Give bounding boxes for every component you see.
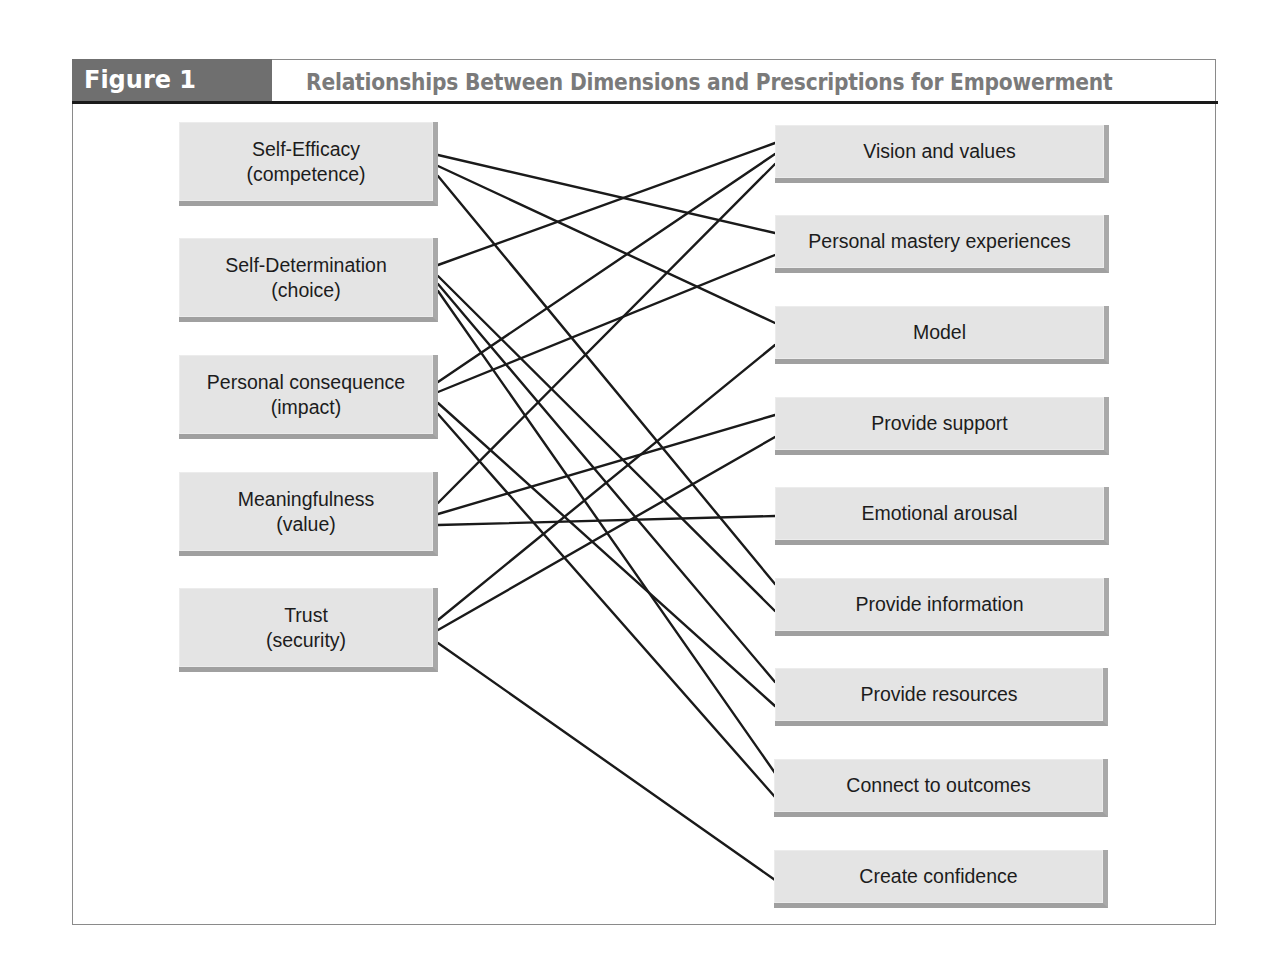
prescription-box-vision: Vision and values <box>775 125 1109 183</box>
prescription-box-confidence: Create confidence <box>774 850 1108 908</box>
dimension-box-meaningfulness: Meaningfulness (value) <box>179 472 438 556</box>
prescription-label: Create confidence <box>859 864 1017 889</box>
connector-trust-support <box>438 437 775 630</box>
dimension-box-trust: Trust (security) <box>179 588 438 672</box>
prescription-box-information: Provide information <box>775 578 1109 636</box>
dimension-name: Personal consequence <box>207 370 405 395</box>
dimension-box-self-efficacy: Self-Efficacy (competence) <box>179 122 438 206</box>
prescription-box-model: Model <box>775 306 1109 364</box>
prescription-label: Emotional arousal <box>861 501 1017 526</box>
prescription-label: Vision and values <box>863 139 1016 164</box>
connector-determination-vision <box>438 143 775 265</box>
connector-determination-outcomes <box>438 291 775 773</box>
prescription-label: Provide information <box>856 592 1024 617</box>
dimension-box-self-determination: Self-Determination (choice) <box>179 238 438 322</box>
prescription-box-resources: Provide resources <box>775 668 1108 726</box>
connector-trust-model <box>438 345 775 620</box>
prescription-box-outcomes: Connect to outcomes <box>774 759 1108 817</box>
dimension-subtitle: (competence) <box>246 162 365 187</box>
dimension-subtitle: (security) <box>266 628 346 653</box>
connector-meaningfulness-support <box>438 415 775 514</box>
dimension-name: Trust <box>284 603 328 628</box>
connector-determination-information <box>438 276 775 611</box>
prescription-box-support: Provide support <box>775 397 1109 455</box>
prescription-label: Model <box>913 320 966 345</box>
connector-consequence-resources <box>438 403 775 706</box>
dimension-name: Self-Determination <box>225 253 386 278</box>
prescription-label: Personal mastery experiences <box>808 229 1070 254</box>
prescription-label: Connect to outcomes <box>846 773 1030 798</box>
dimension-name: Meaningfulness <box>238 487 375 512</box>
connector-trust-confidence <box>438 643 775 880</box>
connector-consequence-vision <box>438 154 775 382</box>
connector-consequence-mastery <box>438 255 775 392</box>
connector-meaningfulness-vision <box>438 164 775 503</box>
prescription-box-mastery: Personal mastery experiences <box>775 215 1109 273</box>
connector-efficacy-mastery <box>438 155 775 233</box>
dimension-name: Self-Efficacy <box>252 137 360 162</box>
dimension-subtitle: (value) <box>276 512 336 537</box>
prescription-label: Provide resources <box>860 682 1017 707</box>
connector-consequence-outcomes <box>438 414 775 797</box>
dimension-subtitle: (choice) <box>271 278 340 303</box>
dimension-box-personal-consequence: Personal consequence (impact) <box>179 355 438 439</box>
prescription-box-arousal: Emotional arousal <box>775 487 1109 545</box>
prescription-label: Provide support <box>871 411 1008 436</box>
dimension-subtitle: (impact) <box>271 395 341 420</box>
